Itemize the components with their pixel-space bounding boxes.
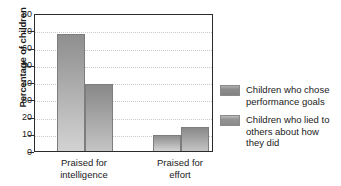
x-axis-category-label: Praised for effort — [135, 157, 225, 180]
chart-legend: Children who chose performance goals Chi… — [220, 84, 341, 156]
bar — [57, 34, 85, 151]
legend-item: Children who lied to others about how th… — [220, 114, 341, 149]
bar-chart-figure: Percentage of children 01020304050607080… — [0, 0, 341, 186]
y-axis-tick-label: 80 — [10, 10, 32, 19]
bar — [153, 135, 181, 151]
plot-area — [34, 14, 213, 152]
bar — [181, 127, 209, 151]
legend-swatch-icon — [220, 115, 240, 126]
legend-swatch-icon — [220, 85, 240, 96]
legend-item: Children who chose performance goals — [220, 84, 341, 107]
legend-item-label: Children who lied to others about how th… — [246, 114, 341, 149]
y-axis-tick-mark — [28, 152, 34, 153]
x-axis-category-label: Praised for intelligence — [39, 157, 129, 180]
legend-item-label: Children who chose performance goals — [246, 84, 341, 107]
bar — [85, 84, 113, 151]
